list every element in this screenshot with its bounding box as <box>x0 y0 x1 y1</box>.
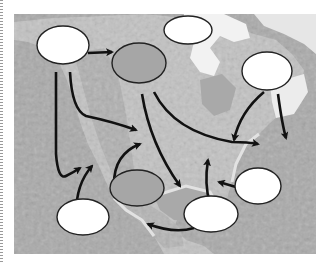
dotted-page-edge <box>0 0 3 263</box>
oval-gulf[interactable] <box>184 196 238 232</box>
oval-north[interactable] <box>164 16 212 44</box>
map-diagram-svg <box>14 14 316 254</box>
oval-central-north[interactable] <box>112 43 166 83</box>
oval-northeast[interactable] <box>242 52 292 90</box>
oval-southwest-pacific[interactable] <box>57 199 109 235</box>
oval-east-atlantic[interactable] <box>235 168 281 204</box>
north-america-map <box>14 14 316 254</box>
oval-northwest[interactable] <box>37 26 89 64</box>
arrow-nw-to-north <box>88 52 112 53</box>
oval-south-central[interactable] <box>110 170 164 206</box>
